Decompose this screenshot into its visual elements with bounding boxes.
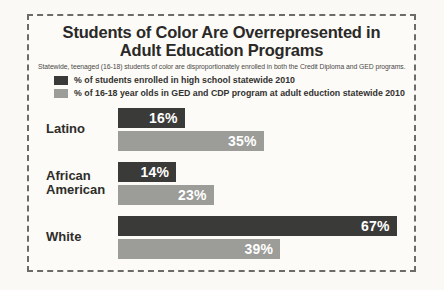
bar-african-american-highschool: 14% — [118, 162, 176, 182]
legend-item-ged-cdp: % of 16-18 year olds in GED and CDP prog… — [54, 88, 405, 99]
bar-value-white-ged: 39% — [245, 241, 274, 257]
bar-latino-ged: 35% — [118, 131, 264, 151]
bar-value-latino-highschool: 16% — [149, 110, 178, 126]
bar-track-latino: 16% 35% — [118, 108, 405, 151]
bar-white-ged: 39% — [118, 239, 280, 259]
chart-title: Students of Color Are Overrepresented in… — [38, 23, 405, 60]
legend-swatch-dark — [54, 76, 68, 85]
scanned-page: Students of Color Are Overrepresented in… — [0, 0, 444, 290]
chart-subtitle: Statewide, teenaged (16-18) students of … — [38, 63, 405, 70]
bar-group-african-american: African American 14% 23% — [38, 162, 405, 205]
bar-value-latino-ged: 35% — [228, 133, 257, 149]
legend-label-highschool: % of students enrolled in high school st… — [74, 75, 295, 85]
bar-group-white: White 67% 39% — [38, 216, 405, 259]
bar-african-american-ged: 23% — [118, 185, 214, 205]
chart-legend: % of students enrolled in high school st… — [54, 75, 405, 99]
bar-group-latino: Latino 16% 35% — [38, 108, 405, 151]
bar-value-african-american-ged: 23% — [178, 187, 207, 203]
chart-panel: Students of Color Are Overrepresented in… — [27, 14, 416, 272]
bar-white-highschool: 67% — [118, 216, 397, 236]
category-label-white: White — [38, 230, 118, 245]
category-label-african-american: African American — [38, 169, 118, 199]
legend-label-ged-cdp: % of 16-18 year olds in GED and CDP prog… — [74, 88, 405, 98]
bar-track-white: 67% 39% — [118, 216, 405, 259]
category-label-latino: Latino — [38, 122, 118, 137]
chart-title-line-1: Students of Color Are Overrepresented in — [38, 23, 405, 41]
legend-item-highschool: % of students enrolled in high school st… — [54, 75, 405, 86]
legend-swatch-light — [54, 89, 68, 98]
bar-latino-highschool: 16% — [118, 108, 185, 128]
bar-value-white-highschool: 67% — [361, 218, 390, 234]
bar-value-african-american-highschool: 14% — [141, 164, 170, 180]
chart-title-line-2: Adult Education Programs — [38, 41, 405, 59]
bar-track-african-american: 14% 23% — [118, 162, 405, 205]
bar-chart: Latino 16% 35% African American 14% — [38, 108, 405, 259]
